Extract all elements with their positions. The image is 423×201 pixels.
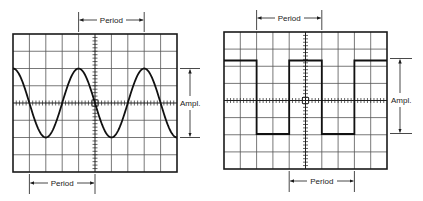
left-period-bottom-label: Period: [51, 179, 74, 188]
right-scope: Period Period Ampl.: [224, 10, 412, 192]
oscilloscope-figure: Period Period Ampl.: [0, 0, 423, 201]
right-amplitude-label: Ampl.: [391, 96, 411, 105]
left-amplitude-label: Ampl.: [180, 99, 200, 108]
right-period-top-label: Period: [278, 14, 301, 23]
right-period-bottom-label: Period: [310, 177, 333, 186]
left-scope: Period Period Ampl.: [13, 12, 200, 194]
left-period-top-label: Period: [100, 16, 123, 25]
